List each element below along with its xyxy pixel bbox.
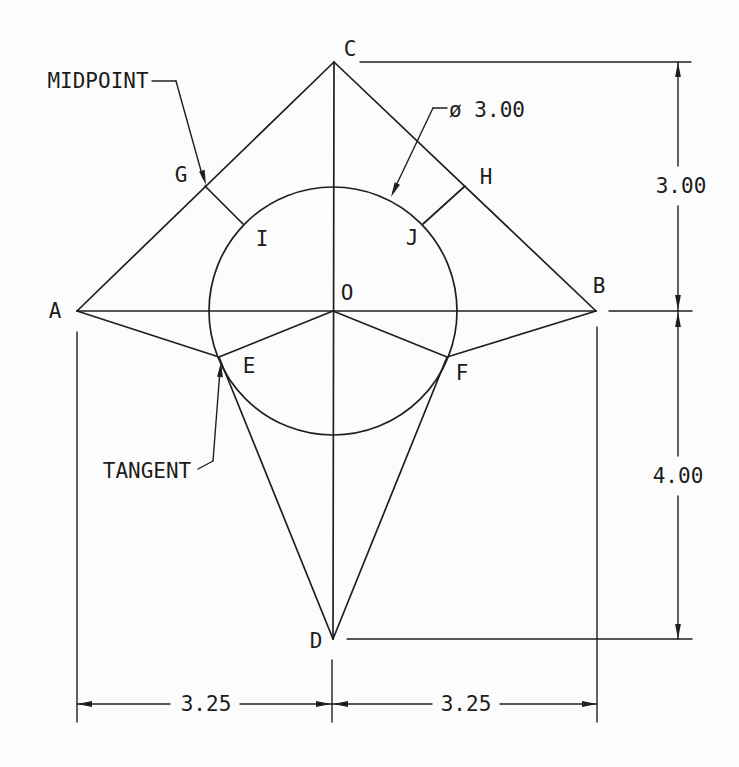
vertex-label-D: D xyxy=(310,629,323,653)
annotation-text-tangent: TANGENT xyxy=(103,459,192,483)
dimension-text: 4.00 xyxy=(653,464,704,488)
arrowhead xyxy=(675,312,681,327)
leader-line xyxy=(198,461,213,469)
shape-edge xyxy=(205,186,243,224)
shape-edge xyxy=(333,311,447,357)
leader-line xyxy=(213,370,220,461)
shape-edge xyxy=(333,62,334,639)
vertex-label-E: E xyxy=(243,354,256,378)
shape-edge xyxy=(447,311,596,357)
dimension-text: 3.25 xyxy=(441,692,492,716)
arrowhead xyxy=(675,62,681,77)
arrowhead xyxy=(391,182,400,197)
shape-edge xyxy=(423,186,465,224)
shape-edge xyxy=(219,357,333,639)
vertex-label-H: H xyxy=(480,165,493,189)
arrowhead xyxy=(77,701,92,707)
dimension-text: 3.00 xyxy=(656,174,707,198)
vertex-label-B: B xyxy=(593,274,606,298)
vertex-label-O: O xyxy=(341,281,354,305)
shape-edge xyxy=(219,311,333,357)
vertex-label-F: F xyxy=(456,361,469,385)
drawing-svg: ABCDOEFGHIJ3.004.003.253.25ø 3.00MIDPOIN… xyxy=(0,0,739,767)
vertex-label-G: G xyxy=(175,163,188,187)
vertex-label-A: A xyxy=(49,299,62,323)
annotation-text-midpoint: MIDPOINT xyxy=(47,69,149,93)
vertex-label-I: I xyxy=(256,227,269,251)
arrowhead xyxy=(675,624,681,639)
dimension-text: 3.25 xyxy=(181,692,232,716)
vertex-label-C: C xyxy=(344,37,357,61)
arrowhead xyxy=(316,701,331,707)
arrowhead xyxy=(199,170,206,185)
dimension-text: ø 3.00 xyxy=(449,98,525,122)
shape-edge xyxy=(77,311,219,357)
arrowhead xyxy=(333,701,348,707)
drawing-page: ABCDOEFGHIJ3.004.003.253.25ø 3.00MIDPOIN… xyxy=(0,0,739,767)
shape-edge xyxy=(333,357,447,639)
arrowhead xyxy=(582,701,597,707)
arrowhead xyxy=(675,295,681,310)
vertex-label-J: J xyxy=(406,226,419,250)
